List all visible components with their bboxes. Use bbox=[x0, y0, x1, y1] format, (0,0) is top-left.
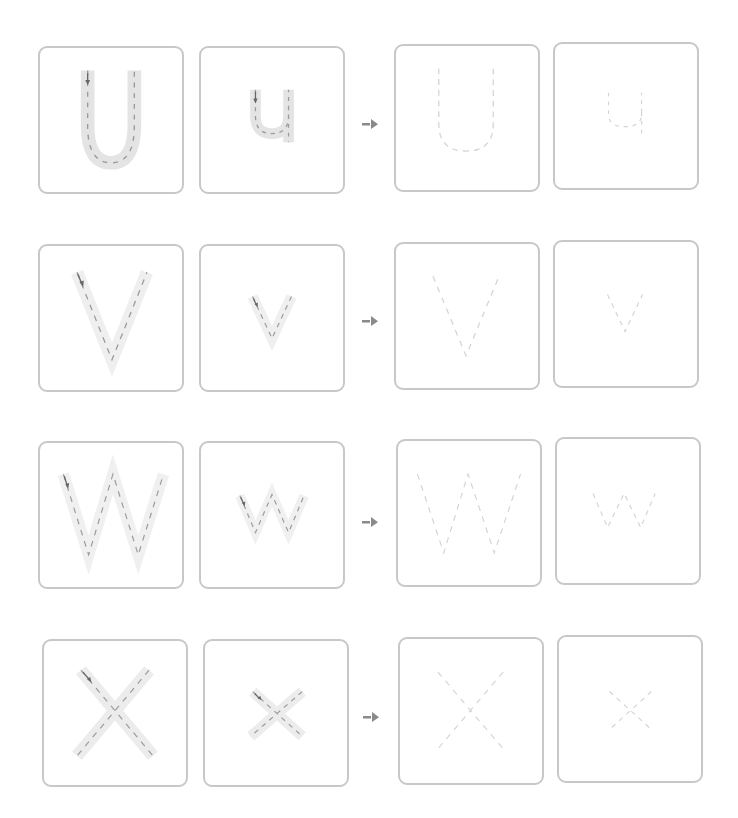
letter-v-lower-guide-icon bbox=[201, 246, 343, 390]
letter-w-guide-icon bbox=[40, 443, 182, 587]
practice-box-lowercase-u[interactable] bbox=[553, 42, 699, 190]
letter-row-w: W w bbox=[0, 441, 738, 593]
practice-box-uppercase-x[interactable] bbox=[398, 637, 544, 785]
right-arrow-icon bbox=[362, 315, 380, 327]
right-arrow-icon bbox=[362, 516, 380, 528]
letter-w-lower-practice-dash-icon bbox=[557, 439, 699, 583]
practice-box-uppercase-v[interactable] bbox=[394, 242, 540, 390]
trace-box-lowercase-v[interactable]: v bbox=[199, 244, 345, 392]
practice-box-lowercase-x[interactable] bbox=[557, 635, 703, 783]
letter-v-lower-practice-dash-icon bbox=[555, 242, 697, 386]
trace-box-uppercase-x[interactable]: X bbox=[42, 639, 188, 787]
letter-w-practice-dash-icon bbox=[398, 441, 540, 585]
trace-box-lowercase-x[interactable]: x bbox=[203, 639, 349, 787]
practice-box-lowercase-w[interactable] bbox=[555, 437, 701, 585]
letter-u-lower-guide-icon bbox=[201, 48, 343, 192]
practice-box-lowercase-v[interactable] bbox=[553, 240, 699, 388]
letter-v-guide-icon bbox=[40, 246, 182, 390]
letter-x-lower-guide-icon bbox=[205, 641, 347, 785]
practice-box-uppercase-w[interactable] bbox=[396, 439, 542, 587]
trace-box-lowercase-u[interactable]: u bbox=[199, 46, 345, 194]
letter-row-v: V v bbox=[0, 244, 738, 396]
letter-v-practice-dash-icon bbox=[396, 244, 538, 388]
letter-w-lower-guide-icon bbox=[201, 443, 343, 587]
trace-box-uppercase-w[interactable]: W bbox=[38, 441, 184, 589]
right-arrow-icon bbox=[362, 118, 380, 130]
trace-box-lowercase-w[interactable]: w bbox=[199, 441, 345, 589]
trace-box-uppercase-u[interactable]: U bbox=[38, 46, 184, 194]
letter-x-lower-practice-dash-icon bbox=[559, 637, 701, 781]
letter-u-guide-icon bbox=[40, 48, 182, 192]
letter-u-practice-dash-icon bbox=[396, 46, 538, 190]
practice-box-uppercase-u[interactable] bbox=[394, 44, 540, 192]
letter-row-x: X x bbox=[0, 639, 738, 791]
letter-x-guide-icon bbox=[44, 641, 186, 785]
right-arrow-icon bbox=[363, 711, 381, 723]
letter-x-practice-dash-icon bbox=[400, 639, 542, 783]
trace-box-uppercase-v[interactable]: V bbox=[38, 244, 184, 392]
letter-u-lower-practice-dash-icon bbox=[555, 44, 697, 188]
letter-row-u: U u bbox=[0, 46, 738, 198]
